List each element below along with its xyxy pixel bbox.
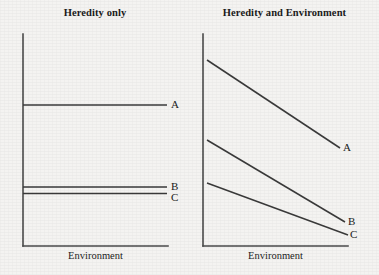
series-label-b-right: B — [348, 216, 355, 227]
series-line-c-right — [207, 183, 348, 235]
series-label-a-left: A — [171, 99, 179, 110]
series-line-a-right — [207, 60, 340, 148]
plot-area-left — [0, 0, 190, 275]
series-label-c-left: C — [171, 192, 178, 203]
series-line-b-right — [207, 140, 345, 222]
x-axis-label-left: Environment — [23, 250, 168, 261]
x-axis-label-right: Environment — [203, 250, 348, 261]
chart-panel-heredity-only: Heredity only A B C Environment — [0, 0, 190, 275]
series-label-c-right: C — [350, 229, 357, 240]
figure-two-panel-reaction-range: Heredity only A B C Environment Heredity… — [0, 0, 379, 275]
series-label-a-right: A — [343, 142, 351, 153]
chart-panel-heredity-and-environment: Heredity and Environment A B C Environme… — [190, 0, 379, 275]
